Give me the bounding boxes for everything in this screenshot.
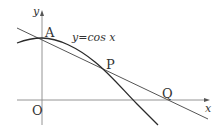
y-axis-label: y: [33, 6, 39, 17]
point-Q-label: Q: [162, 87, 173, 100]
curve-equation-label: y=cos x: [72, 32, 116, 43]
y-axis-arrow-icon: [40, 10, 44, 16]
point-P-label: P: [106, 58, 115, 71]
point-A-label: A: [45, 26, 54, 39]
origin-label: O: [32, 104, 43, 117]
x-axis-label: x: [205, 103, 211, 114]
